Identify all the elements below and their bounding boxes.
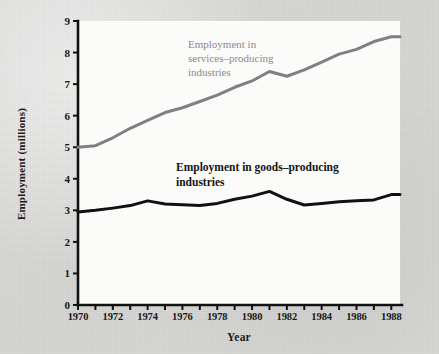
y-tick-label: 9: [48, 15, 70, 27]
y-axis-title: Employment (millions): [15, 99, 27, 229]
y-tick-label: 7: [48, 78, 70, 90]
y-tick-label: 4: [48, 173, 70, 185]
y-tick-label: 2: [48, 236, 70, 248]
y-tick-label: 0: [48, 299, 70, 311]
y-tick-label: 3: [48, 204, 70, 216]
y-tick-label: 8: [48, 47, 70, 59]
x-tick-label: 1988: [369, 311, 413, 322]
series-line: [78, 191, 400, 212]
y-tick-label: 5: [48, 141, 70, 153]
y-tick-label: 1: [48, 267, 70, 279]
y-tick-label: 6: [48, 110, 70, 122]
x-axis-title: Year: [78, 331, 400, 343]
series-label-services: Employment in services–producing industr…: [188, 37, 274, 79]
series-label-goods: Employment in goods–producing industries: [176, 160, 339, 189]
figure-container: Employment (millions) Year 9876543210 19…: [0, 0, 439, 354]
